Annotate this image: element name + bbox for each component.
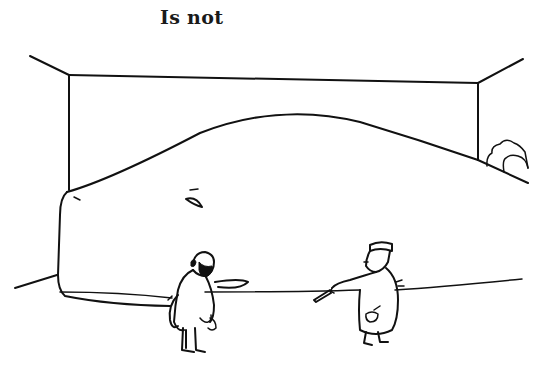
bearded-man <box>168 252 248 352</box>
large-mound-object <box>58 114 478 306</box>
room-walls <box>15 56 528 290</box>
man-with-cap <box>314 242 404 345</box>
cartoon-illustration <box>0 0 552 373</box>
